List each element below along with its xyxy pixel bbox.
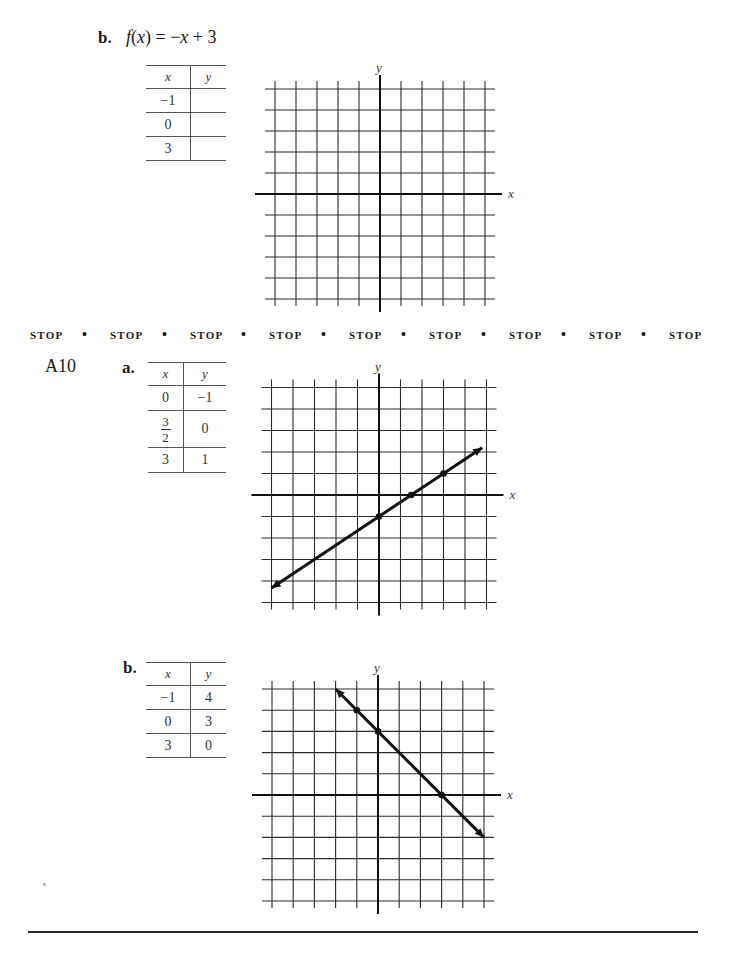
plotted-point (438, 792, 445, 799)
plotted-point (375, 728, 382, 735)
y-axis-label: y (372, 660, 380, 675)
plotted-point (354, 707, 361, 714)
bottom-rule (28, 931, 698, 933)
x-axis-label: x (506, 787, 513, 802)
paper-speck (43, 883, 46, 886)
coordinate-grid-answer-b: xy (0, 0, 740, 971)
